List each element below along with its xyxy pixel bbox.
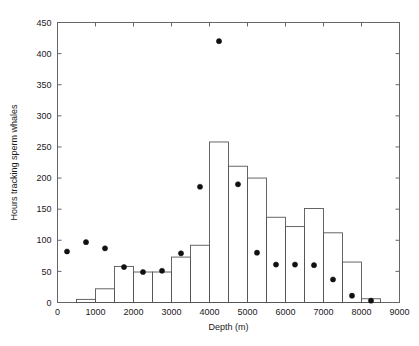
scatter-point: [330, 277, 335, 282]
y-tick-label: 150: [36, 204, 51, 214]
scatter-point: [197, 184, 202, 189]
scatter-point: [349, 293, 354, 298]
y-tick-label: 0: [46, 298, 51, 308]
x-tick-label: 8000: [351, 307, 371, 317]
scatter-point: [64, 249, 69, 254]
x-tick-label: 4000: [199, 307, 219, 317]
y-tick-label: 400: [36, 49, 51, 59]
scatter-point: [140, 269, 145, 274]
x-axis-title: Depth (m): [208, 322, 248, 332]
x-tick-label: 9000: [389, 307, 409, 317]
y-tick-label: 300: [36, 111, 51, 121]
x-tick-label: 0: [55, 307, 60, 317]
y-tick-label: 50: [41, 267, 51, 277]
scatter-point: [102, 246, 107, 251]
y-tick-label: 350: [36, 80, 51, 90]
scatter-point: [159, 268, 164, 273]
x-tick-label: 3000: [161, 307, 181, 317]
scatter-point: [216, 39, 221, 44]
y-tick-label: 250: [36, 142, 51, 152]
x-tick-label: 7000: [313, 307, 333, 317]
scatter-point: [273, 262, 278, 267]
y-tick-label: 200: [36, 173, 51, 183]
scatter-point: [254, 250, 259, 255]
scatter-point: [121, 264, 126, 269]
x-tick-label: 2000: [123, 307, 143, 317]
scatter-point: [368, 298, 373, 303]
histogram-scatter-chart: 0100020003000400050006000700080009000 05…: [0, 0, 419, 346]
y-tick-label: 450: [36, 18, 51, 28]
scatter-point: [178, 251, 183, 256]
scatter-point: [235, 182, 240, 187]
x-tick-label: 1000: [85, 307, 105, 317]
y-tick-label: 100: [36, 235, 51, 245]
x-tick-label: 5000: [237, 307, 257, 317]
scatter-point: [311, 263, 316, 268]
chart-figure: 0100020003000400050006000700080009000 05…: [0, 0, 419, 346]
scatter-point: [292, 262, 297, 267]
scatter-point: [83, 240, 88, 245]
y-axis-title: Hours tracking sperm whales: [9, 104, 19, 221]
x-tick-label: 6000: [275, 307, 295, 317]
